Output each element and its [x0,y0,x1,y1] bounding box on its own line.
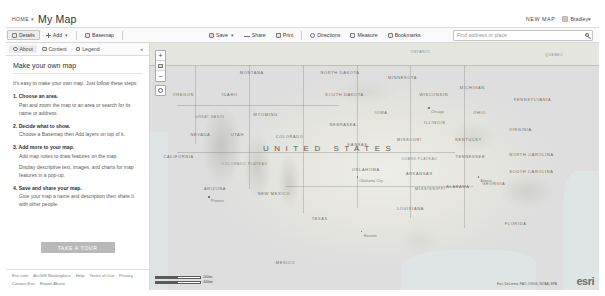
step-2-body: Choose a Basemap then Add layers on top … [13,130,142,138]
basemap-label: Basemap [92,32,114,38]
step-4-body: Give your map a name and description the… [13,192,142,208]
footer-link-help[interactable]: Help [76,273,85,278]
map-water-north [150,43,599,65]
map-border-h3 [285,186,474,187]
chevron-down-icon: ▾ [65,33,68,38]
tab-legend[interactable]: Legend [72,45,104,53]
footer-link-privacy[interactable]: Privacy [119,273,133,278]
footer-link-report-abuse[interactable]: Report Abuse [40,281,65,286]
scale-bar-km-label: 400km [203,280,213,284]
collapse-panel-button[interactable]: ◂ [140,46,146,52]
share-label: Share [252,32,266,38]
avatar [562,16,568,22]
home-link[interactable]: HOME [12,16,29,22]
basemap-button[interactable]: Basemap [81,31,118,39]
share-button[interactable]: Share [240,31,270,39]
measure-icon [350,33,355,38]
step-4-title: 4. Save and share your map. [13,185,142,191]
layers-icon [42,47,47,52]
bookmarks-button[interactable]: Bookmarks [384,31,425,39]
panel-heading: Make your own map [13,62,142,74]
step-1-body: Pan and zoom the map to an area or searc… [13,101,142,117]
map-border-north [150,65,599,66]
panel-body: Make your own map It's easy to make your… [6,56,149,269]
step-1-line-1: Pan and zoom the map to an area or searc… [19,101,142,117]
footer-link-contact[interactable]: Contact Esri [12,281,35,286]
panel-intro-text: It's easy to make your own map. Just fol… [13,79,142,87]
step-1: 1. Choose an area. Pan and zoom the map … [13,93,142,117]
details-panel: About Content Legend ◂ Make your own map… [6,43,150,290]
tab-about-label: About [20,46,34,52]
locate-button[interactable] [155,85,166,96]
map-border-h2 [177,152,455,153]
step-3-line-2: Display descriptive text, images, and ch… [19,163,142,179]
footer-link-terms[interactable]: Terms of Use [89,273,114,278]
search-box[interactable] [453,30,593,41]
toolbar-center-group: Save ▾ Share Print Directions Measure [204,31,426,40]
locate-icon [158,88,163,93]
zoom-controls[interactable]: + − [155,50,166,82]
map-toolbar: Details Add ▾ Basemap Save ▾ Share [6,28,599,43]
directions-button[interactable]: Directions [306,31,344,39]
bookmarks-icon [388,33,393,38]
info-icon [13,47,18,52]
tab-about[interactable]: About [9,45,37,53]
toolbar-divider [76,31,77,40]
add-button[interactable]: Add ▾ [42,31,72,39]
arcgis-map-viewer: HOME ▾ My Map NEW MAP Bradley▾ Details A… [0,0,605,296]
map-terrain-layer [150,43,599,290]
step-2-title: 2. Decide what to show. [13,123,142,129]
save-icon [209,33,214,38]
panel-footer: Esri.com ArcGIS Marketplace Help Terms o… [6,269,149,290]
scale-bar-miles-label: 200mi [203,275,212,279]
home-button[interactable] [156,61,165,71]
scale-bar-km-row: 400km [155,280,213,284]
scale-bar-miles-graphic [155,276,201,279]
step-3: 3. Add more to your map. Add map notes t… [13,144,142,179]
step-3-body: Add map notes to draw features on the ma… [13,152,142,179]
toolbar-right-group [453,30,593,41]
map-border-v3 [303,65,304,213]
tab-legend-label: Legend [82,46,99,52]
search-icon[interactable] [585,33,589,37]
new-map-button[interactable]: NEW MAP [526,16,556,22]
measure-label: Measure [357,32,377,38]
step-2-line-1: Choose a Basemap then Add layers on top … [19,130,142,138]
print-icon [276,33,281,38]
user-menu[interactable]: Bradley▾ [562,16,591,22]
take-a-tour-button[interactable]: TAKE A TOUR [41,242,115,253]
page-title: My Map [38,13,77,25]
map-city-dot [428,107,429,108]
tour-button-wrap: TAKE A TOUR [6,242,149,253]
print-button[interactable]: Print [272,31,298,39]
tab-content-label: Content [49,46,67,52]
basemap-icon [85,33,90,38]
map-border-v2 [249,65,250,189]
home-caret-icon[interactable]: ▾ [31,16,34,22]
print-label: Print [283,32,294,38]
toolbar-divider-3 [301,31,302,40]
tab-content[interactable]: Content [38,45,71,53]
footer-link-esri-com[interactable]: Esri.com [12,273,28,278]
search-input[interactable] [457,32,585,38]
home-icon [158,64,163,68]
measure-button[interactable]: Measure [346,31,381,39]
save-button[interactable]: Save ▾ [205,31,238,39]
map-city-dot [357,176,358,177]
map-canvas[interactable]: UNITED STATES QUEBECONTARIOMONTANANORTH … [150,43,599,290]
map-border-v6 [464,65,465,228]
zoom-out-button[interactable]: − [156,71,165,81]
details-label: Details [19,32,35,38]
details-button[interactable]: Details [7,30,40,40]
legend-icon [76,47,81,52]
step-4: 4. Save and share your map. Give your ma… [13,185,142,209]
zoom-in-button[interactable]: + [156,51,165,61]
panel-tab-bar: About Content Legend ◂ [6,43,149,56]
user-name-label: Bradley▾ [570,16,591,22]
share-icon [244,36,250,37]
toolbar-left-group: Details Add ▾ Basemap [6,30,126,40]
map-water-atlantic [563,171,599,290]
footer-link-marketplace[interactable]: ArcGIS Marketplace [33,273,70,278]
step-3-line-1: Add map notes to draw features on the ma… [19,152,142,160]
map-city-dot [478,176,479,177]
